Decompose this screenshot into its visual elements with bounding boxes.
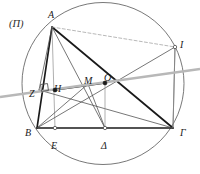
geometry-figure: (Π) ABΓΔEZHMOI xyxy=(0,0,200,174)
point-dot-Delta xyxy=(103,126,106,129)
segment-segment-IG-v xyxy=(173,47,175,128)
point-label-Delta: Δ xyxy=(101,141,107,151)
point-label-I: I xyxy=(180,40,183,50)
point-dot-E xyxy=(53,126,56,129)
segment-side-AB xyxy=(37,27,52,128)
point-label-O: O xyxy=(104,73,111,83)
point-label-E: E xyxy=(51,141,57,151)
segment-cevian-AZ xyxy=(39,27,52,90)
point-label-Gamma: Γ xyxy=(180,128,186,138)
segment-chord-AI xyxy=(52,27,175,47)
point-label-M: M xyxy=(84,76,92,86)
figure-canvas xyxy=(0,0,200,174)
segment-median-AD xyxy=(52,27,105,128)
figure-tag: (Π) xyxy=(9,18,24,29)
point-label-Z: Z xyxy=(29,89,35,99)
point-label-B: B xyxy=(25,128,31,138)
segment-diagonal-AG xyxy=(52,27,173,128)
point-label-H: H xyxy=(54,84,61,94)
segment-segment-MD xyxy=(88,84,105,128)
point-label-A: A xyxy=(48,10,54,20)
point-dot-I xyxy=(173,45,176,48)
